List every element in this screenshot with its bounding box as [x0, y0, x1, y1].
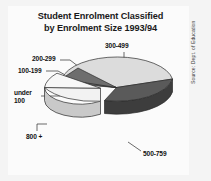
- slice-label-under-100: under 100: [14, 89, 40, 104]
- slice-label-under-100-line-2: 100: [14, 97, 25, 104]
- leader-500-759: [128, 142, 141, 151]
- slice-label-200-299: 200-299: [32, 55, 56, 62]
- source-note: Source: Dept. of Education: [190, 0, 196, 84]
- slice-label-500-759: 500-759: [143, 150, 167, 157]
- slice-label-800-plus: 800 +: [26, 133, 42, 140]
- slice-label-under-100-line-1: under: [14, 89, 32, 96]
- slice-label-300-499: 300-499: [105, 42, 129, 49]
- leader-800-plus: [37, 124, 47, 131]
- slice-label-100-199: 100-199: [18, 67, 42, 74]
- chart-figure: Student Enrolment Classified by Enrolmen…: [0, 0, 211, 181]
